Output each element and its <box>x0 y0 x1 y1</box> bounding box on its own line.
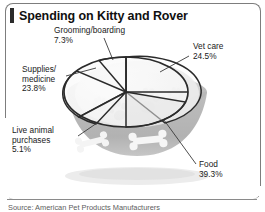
label-food-value: 39.3% <box>199 170 223 180</box>
label-grooming-boarding-value: 7.3% <box>54 36 125 46</box>
pie-slices <box>63 56 201 127</box>
footer-divider <box>7 199 257 200</box>
label-vet-care-value: 24.5% <box>193 52 223 62</box>
chart-stage <box>0 24 265 192</box>
pie-chart-figure: Spending on Kitty and Rover <box>0 0 265 212</box>
label-food: Food 39.3% <box>199 160 223 179</box>
label-live-animal-value: 5.1% <box>12 145 54 155</box>
label-live-animal-purchases: Live animal purchases 5.1% <box>12 126 54 155</box>
title-accent-bar <box>10 8 14 23</box>
label-supplies-medicine: Supplies/ medicine 23.8% <box>22 65 56 94</box>
chart-title-text: Spending on Kitty and Rover <box>19 9 188 23</box>
source-caption: Source: American Pet Products Manufactur… <box>8 203 258 212</box>
label-supplies-medicine-value: 23.8% <box>22 84 56 94</box>
label-grooming-boarding: Grooming/boarding 7.3% <box>54 26 125 45</box>
label-vet-care: Vet care 24.5% <box>193 42 223 61</box>
bowl-ground-shadow <box>65 167 209 185</box>
chart-title: Spending on Kitty and Rover <box>10 7 188 24</box>
